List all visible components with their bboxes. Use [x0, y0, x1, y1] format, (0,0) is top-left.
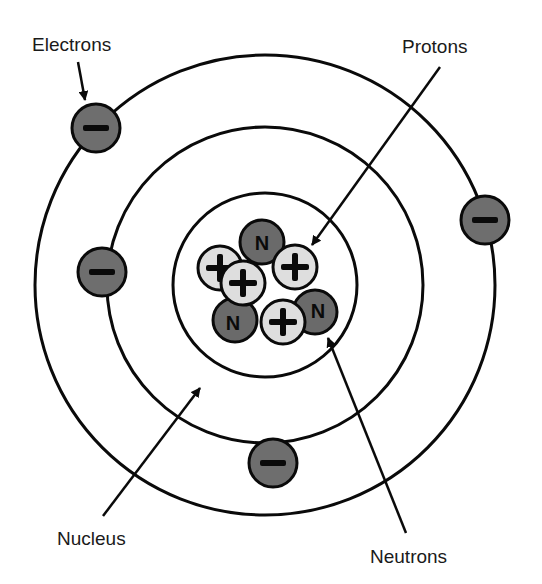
neutron-letter: N [226, 312, 240, 334]
minus-icon [472, 217, 498, 223]
electrons-label: Electrons [32, 34, 111, 56]
electron [78, 248, 126, 296]
electrons-arrow [78, 62, 85, 100]
minus-icon [83, 125, 109, 131]
protons-arrow [312, 67, 440, 245]
minus-icon [260, 460, 286, 466]
proton [273, 245, 317, 289]
proton [221, 261, 265, 305]
electron [461, 196, 509, 244]
protons-label: Protons [402, 36, 467, 58]
proton [261, 300, 305, 344]
atom-diagram: N N N [0, 0, 542, 584]
nucleus-label: Nucleus [57, 528, 126, 550]
neutrons-label: Neutrons [370, 546, 447, 568]
neutron-letter: N [255, 232, 269, 254]
electron [72, 104, 120, 152]
neutron-letter: N [311, 300, 325, 322]
nucleus-arrow [103, 388, 200, 516]
minus-icon [89, 269, 115, 275]
electron [249, 439, 297, 487]
